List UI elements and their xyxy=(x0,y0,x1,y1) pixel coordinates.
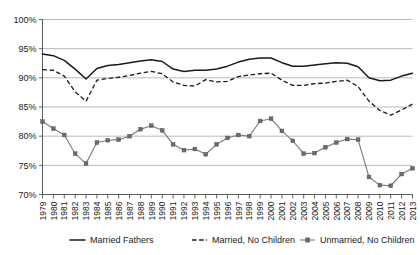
series-marker xyxy=(193,147,197,151)
x-axis-tick-label: 1996 xyxy=(223,201,233,220)
x-axis-tick-label: 2010 xyxy=(375,201,385,220)
series-marker xyxy=(204,152,208,156)
x-axis-tick-label: 2011 xyxy=(386,201,396,220)
x-axis-tick-label: 1998 xyxy=(244,201,254,220)
x-axis-tick-label: 1984 xyxy=(92,201,102,220)
x-axis-tick-label: 1993 xyxy=(190,201,200,220)
series-marker xyxy=(149,124,153,128)
x-axis-tick-label: 1981 xyxy=(59,201,69,220)
chart-container: 100%95%90%85%80%75%70% 19791980198119821… xyxy=(0,0,420,255)
series-marker xyxy=(313,151,317,155)
x-axis-tick-label: 1989 xyxy=(147,201,157,220)
legend-item-0[interactable]: Married Fathers xyxy=(70,235,154,245)
x-axis-ticks xyxy=(43,195,413,199)
x-axis-tick-label: 1980 xyxy=(49,201,59,220)
x-axis-tick-label: 1986 xyxy=(114,201,124,220)
x-axis-tick-label: 2007 xyxy=(342,201,352,220)
x-axis-tick-label: 2002 xyxy=(288,201,298,220)
x-axis-tick-label: 1992 xyxy=(179,201,189,220)
data-series xyxy=(41,54,415,188)
series-marker xyxy=(182,148,186,152)
x-axis-tick-label: 2001 xyxy=(277,201,287,220)
x-axis-tick-label: 2000 xyxy=(266,201,276,220)
x-axis-tick-label: 1988 xyxy=(136,201,146,220)
series-marker xyxy=(95,141,99,145)
series-marker xyxy=(226,136,230,140)
series-marker xyxy=(367,175,371,179)
legend-swatch-marker xyxy=(306,238,310,242)
y-axis-tick-label: 70% xyxy=(18,190,36,200)
legend-item-1[interactable]: Married, No Children xyxy=(192,235,295,245)
series-marker xyxy=(106,138,110,142)
x-axis-tick-label: 2009 xyxy=(364,201,374,220)
line-chart: 100%95%90%85%80%75%70% 19791980198119821… xyxy=(0,0,420,255)
x-axis-tick-label: 2006 xyxy=(332,201,342,220)
x-axis-tick-label: 1990 xyxy=(157,201,167,220)
x-axis-tick-label: 1999 xyxy=(255,201,265,220)
x-axis-tick-label: 2008 xyxy=(353,201,363,220)
x-axis-tick-label: 1979 xyxy=(38,201,48,220)
chart-legend: Married FathersMarried, No ChildrenUnmar… xyxy=(70,235,415,245)
series-marker xyxy=(258,119,262,123)
x-axis-tick-label: 2004 xyxy=(310,201,320,220)
series-marker xyxy=(269,117,273,121)
series-marker xyxy=(171,142,175,146)
legend-label: Unmarried, No Children xyxy=(320,235,415,245)
series-line-0 xyxy=(43,54,413,81)
series-marker xyxy=(324,145,328,149)
legend-label: Married, No Children xyxy=(212,235,295,245)
x-axis-labels: 1979198019811982198319841985198619871988… xyxy=(38,201,418,220)
x-axis-tick-label: 1985 xyxy=(103,201,113,220)
y-axis-tick-label: 75% xyxy=(18,161,36,171)
series-line-2 xyxy=(43,119,413,186)
x-axis-tick-label: 1987 xyxy=(125,201,135,220)
x-axis-tick-label: 1997 xyxy=(234,201,244,220)
y-axis-tick-label: 80% xyxy=(18,131,36,141)
series-marker xyxy=(73,152,77,156)
legend-item-2[interactable]: Unmarried, No Children xyxy=(300,235,415,245)
series-marker xyxy=(411,166,415,170)
x-axis-tick-label: 2013 xyxy=(408,201,418,220)
x-axis-tick-label: 2005 xyxy=(321,201,331,220)
x-axis-tick-label: 2012 xyxy=(397,201,407,220)
series-marker xyxy=(291,139,295,143)
legend-label: Married Fathers xyxy=(90,235,154,245)
series-marker xyxy=(51,127,55,131)
x-axis-tick-label: 2003 xyxy=(299,201,309,220)
y-axis-tick-label: 85% xyxy=(18,102,36,112)
series-marker xyxy=(236,133,240,137)
series-marker xyxy=(400,172,404,176)
series-marker xyxy=(139,127,143,131)
series-line-1 xyxy=(43,70,413,116)
series-marker xyxy=(128,134,132,138)
x-axis-tick-label: 1994 xyxy=(201,201,211,220)
series-marker xyxy=(302,152,306,156)
series-marker xyxy=(41,120,45,124)
y-axis-tick-label: 95% xyxy=(18,44,36,54)
series-marker xyxy=(389,184,393,188)
series-marker xyxy=(280,129,284,133)
series-marker xyxy=(345,137,349,141)
series-marker xyxy=(247,134,251,138)
series-marker xyxy=(334,141,338,145)
x-axis-tick-label: 1983 xyxy=(81,201,91,220)
series-marker xyxy=(356,138,360,142)
series-marker xyxy=(117,138,121,142)
series-marker xyxy=(84,162,88,166)
x-axis-tick-label: 1991 xyxy=(168,201,178,220)
x-axis-tick-label: 1995 xyxy=(212,201,222,220)
series-marker xyxy=(160,128,164,132)
y-axis-labels: 100%95%90%85%80%75%70% xyxy=(13,15,36,200)
y-axis-tick-label: 90% xyxy=(18,73,36,83)
x-axis-tick-label: 1982 xyxy=(70,201,80,220)
series-marker xyxy=(62,133,66,137)
series-marker xyxy=(378,183,382,187)
gridlines xyxy=(39,20,413,195)
y-axis-tick-label: 100% xyxy=(13,15,36,25)
series-marker xyxy=(215,142,219,146)
